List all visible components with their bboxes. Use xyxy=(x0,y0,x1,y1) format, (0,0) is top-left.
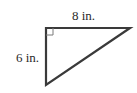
right-triangle-diagram xyxy=(0,0,137,93)
top-side-label: 8 in. xyxy=(72,9,95,22)
left-side-label: 6 in. xyxy=(16,51,39,64)
triangle-shape xyxy=(46,28,130,85)
